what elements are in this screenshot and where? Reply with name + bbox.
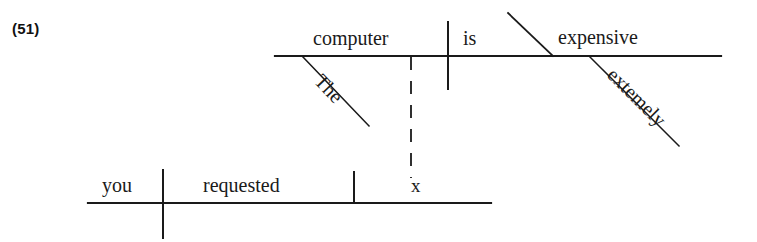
word-relative-verb: requested bbox=[203, 175, 280, 195]
predicate-adjective-slant-line bbox=[508, 13, 553, 56]
sentence-diagram-figure: (51) computer is expensive The extemely … bbox=[0, 0, 757, 242]
word-relative-object: x bbox=[411, 176, 421, 195]
word-main-verb: is bbox=[463, 28, 476, 48]
word-relative-subject: you bbox=[102, 175, 132, 195]
word-predicate-adjective: expensive bbox=[558, 27, 638, 47]
word-main-subject: computer bbox=[313, 28, 389, 48]
